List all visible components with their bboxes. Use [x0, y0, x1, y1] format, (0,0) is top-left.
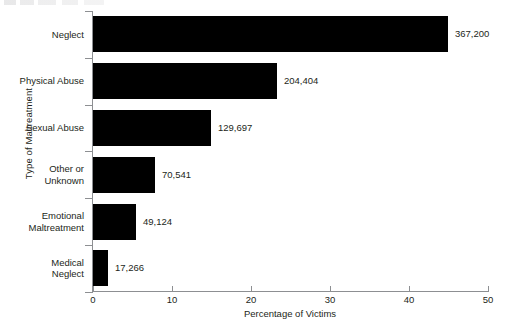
- category-label-line: Unknown: [0, 175, 84, 187]
- x-tick-20: [251, 286, 252, 292]
- bar-other-or-unknown: [93, 157, 155, 193]
- bar-emotional-maltreatment: [93, 204, 136, 240]
- x-tick-10: [172, 286, 173, 292]
- category-label-line: Physical Abuse: [0, 75, 84, 87]
- x-tick-label-20: 20: [231, 294, 271, 305]
- category-label-medical-neglect: MedicalNeglect: [0, 257, 84, 280]
- bar-value-sexual-abuse: 129,697: [218, 122, 252, 133]
- x-tick-40: [409, 286, 410, 292]
- x-tick-label-0: 0: [73, 294, 113, 305]
- x-axis-line: [92, 291, 488, 292]
- y-tick-6: [85, 292, 93, 293]
- x-axis-title: Percentage of Victims: [92, 308, 488, 319]
- category-label-line: Medical: [0, 257, 84, 269]
- x-tick-label-40: 40: [389, 294, 429, 305]
- y-tick-3: [85, 151, 93, 152]
- cropped-text-artifact: [4, 0, 124, 5]
- category-label-emotional-maltreatment: EmotionalMaltreatment: [0, 210, 84, 233]
- bar-value-other-or-unknown: 70,541: [162, 169, 191, 180]
- category-label-line: Sexual Abuse: [0, 122, 84, 134]
- bar-value-medical-neglect: 17,266: [115, 262, 144, 273]
- category-label-other-or-unknown: Other orUnknown: [0, 163, 84, 186]
- category-label-neglect: Neglect: [0, 29, 84, 41]
- bar-sexual-abuse: [93, 110, 211, 146]
- category-label-line: Neglect: [0, 268, 84, 280]
- y-tick-2: [85, 105, 93, 106]
- y-tick-5: [85, 245, 93, 246]
- x-tick-label-30: 30: [310, 294, 350, 305]
- x-tick-label-10: 10: [152, 294, 192, 305]
- bar-chart: Type of Maltreatment Percentage of Victi…: [0, 0, 506, 328]
- x-tick-label-50: 50: [468, 294, 506, 305]
- bar-value-emotional-maltreatment: 49,124: [143, 216, 172, 227]
- y-tick-0: [85, 11, 93, 12]
- category-label-line: Neglect: [0, 29, 84, 41]
- bar-value-neglect: 367,200: [455, 28, 489, 39]
- bar-medical-neglect: [93, 250, 108, 286]
- bar-physical-abuse: [93, 63, 277, 99]
- x-tick-50: [488, 286, 489, 292]
- y-tick-1: [85, 58, 93, 59]
- category-label-line: Maltreatment: [0, 222, 84, 234]
- category-label-sexual-abuse: Sexual Abuse: [0, 122, 84, 134]
- category-label-physical-abuse: Physical Abuse: [0, 75, 84, 87]
- category-label-line: Other or: [0, 163, 84, 175]
- y-tick-4: [85, 198, 93, 199]
- bar-neglect: [93, 16, 448, 52]
- x-tick-0: [93, 286, 94, 292]
- bar-value-physical-abuse: 204,404: [284, 75, 318, 86]
- category-label-line: Emotional: [0, 210, 84, 222]
- x-tick-30: [330, 286, 331, 292]
